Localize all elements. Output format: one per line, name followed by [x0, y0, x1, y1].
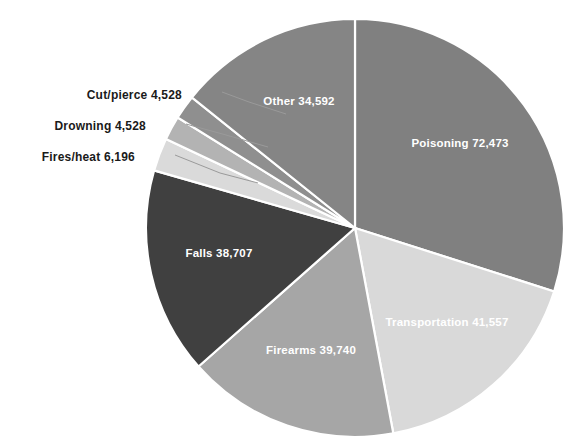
pie-label-cut-pierce: Cut/pierce 4,528 — [87, 88, 182, 102]
pie-slices-group — [146, 19, 564, 437]
pie-label-fires-heat: Fires/heat 6,196 — [42, 150, 135, 164]
pie-label-drowning: Drowning 4,528 — [55, 119, 147, 133]
pie-chart-svg — [0, 0, 577, 448]
chart-canvas: Poisoning 72,473Transportation 41,557Fir… — [0, 0, 577, 448]
